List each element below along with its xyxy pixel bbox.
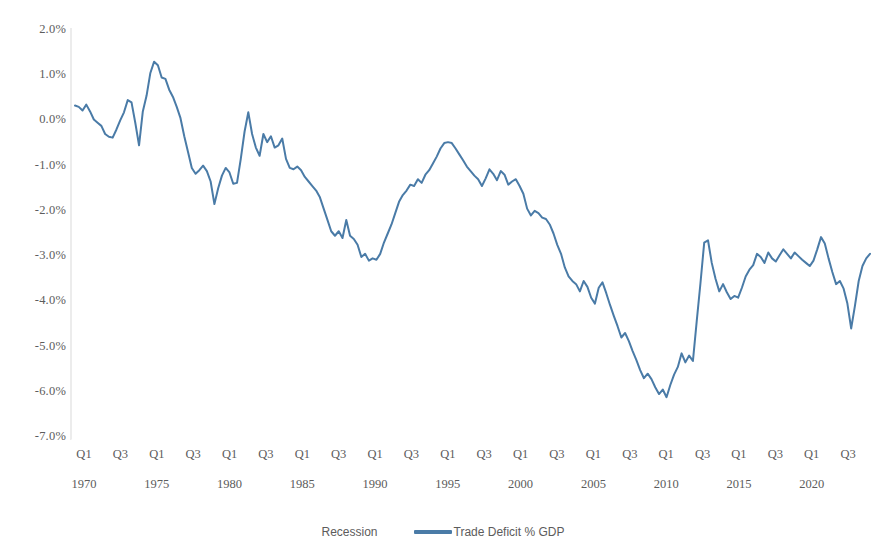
- axis-lines: [71, 28, 878, 440]
- x-axis-year-label: 1980: [217, 477, 242, 492]
- x-axis-quarter-label: Q3: [622, 447, 637, 462]
- x-axis-quarter-label: Q3: [477, 447, 492, 462]
- x-axis-quarter-label: Q1: [76, 447, 91, 462]
- x-axis-quarter-label: Q1: [149, 447, 164, 462]
- x-axis-year-label: 1990: [363, 477, 388, 492]
- x-axis-quarter-label: Q3: [840, 447, 855, 462]
- x-axis-quarter-label: Q3: [113, 447, 128, 462]
- x-axis-quarter-label: Q1: [731, 447, 746, 462]
- x-axis-quarter-label: Q1: [367, 447, 382, 462]
- x-axis-quarter-label: Q3: [695, 447, 710, 462]
- series-line-trade-deficit: [75, 62, 870, 398]
- x-axis-year-label: 2010: [654, 477, 679, 492]
- x-axis-quarter-label: Q1: [586, 447, 601, 462]
- x-axis-quarter-label: Q3: [549, 447, 564, 462]
- x-axis-quarter-label: Q3: [258, 447, 273, 462]
- x-axis-quarter-label: Q3: [186, 447, 201, 462]
- x-axis: Q1Q3Q1Q3Q1Q3Q1Q3Q1Q3Q1Q3Q1Q3Q1Q3Q1Q3Q1Q3…: [71, 447, 886, 507]
- x-axis-year-label: 2020: [799, 477, 824, 492]
- legend-label-recession: Recession: [322, 525, 378, 539]
- x-axis-quarter-label: Q1: [222, 447, 237, 462]
- x-axis-quarter-label: Q3: [331, 447, 346, 462]
- x-axis-year-label: 1995: [435, 477, 460, 492]
- x-axis-year-label: 2015: [726, 477, 751, 492]
- x-axis-year-label: 2005: [581, 477, 606, 492]
- x-axis-quarter-label: Q1: [804, 447, 819, 462]
- x-axis-year-label: 2000: [508, 477, 533, 492]
- chart-legend: Recession Trade Deficit % GDP: [0, 517, 886, 547]
- x-axis-quarter-label: Q1: [513, 447, 528, 462]
- legend-item-trade-deficit[interactable]: Trade Deficit % GDP: [414, 525, 565, 539]
- x-axis-quarter-label: Q1: [659, 447, 674, 462]
- trade-deficit-swatch-icon: [414, 530, 452, 534]
- x-axis-quarter-label: Q1: [295, 447, 310, 462]
- x-axis-quarter-label: Q3: [768, 447, 783, 462]
- x-axis-year-label: 1970: [72, 477, 97, 492]
- trade-deficit-chart: 2.0%1.0%0.0%-1.0%-2.0%-3.0%-4.0%-5.0%-6.…: [0, 0, 886, 554]
- legend-item-recession[interactable]: Recession: [322, 525, 378, 539]
- x-axis-year-label: 1985: [290, 477, 315, 492]
- x-axis-quarter-label: Q1: [440, 447, 455, 462]
- legend-label-trade-deficit: Trade Deficit % GDP: [454, 525, 565, 539]
- x-axis-quarter-label: Q3: [404, 447, 419, 462]
- x-axis-year-label: 1975: [144, 477, 169, 492]
